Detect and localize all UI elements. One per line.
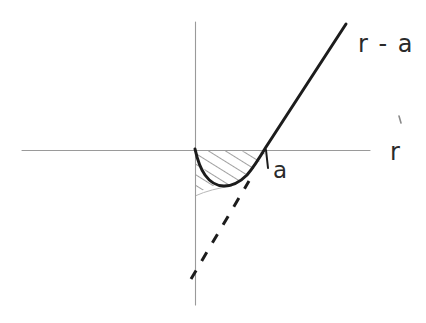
root-point-label: a xyxy=(273,157,287,183)
figure-canvas: r - a r a xyxy=(0,0,426,323)
curve-label: r - a xyxy=(358,30,414,58)
stray-apostrophe-mark xyxy=(399,116,401,123)
figure-root: r - a r a xyxy=(0,0,426,323)
asymptote-dashed-line xyxy=(191,181,249,279)
x-axis-label: r xyxy=(390,138,401,166)
tick-mark-a xyxy=(266,150,268,168)
hatched-region xyxy=(195,150,266,196)
